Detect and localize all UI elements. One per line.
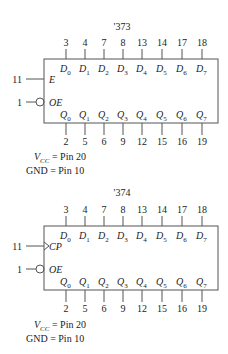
output-label: Q4 — [136, 109, 147, 123]
control-label: OE — [49, 97, 62, 108]
pin-number: 8 — [121, 37, 126, 48]
vcc-note: VCC = Pin 20 — [34, 319, 86, 333]
pin-number: 3 — [64, 204, 69, 215]
output-label: Q7 — [196, 109, 207, 123]
pin-number: 9 — [121, 136, 126, 147]
pin-number: 8 — [121, 204, 126, 215]
output-label: Q1 — [79, 276, 90, 290]
pin-number: 17 — [177, 37, 187, 48]
pin-number: 11 — [12, 74, 22, 85]
data-input-label: D6 — [175, 63, 187, 77]
pin-number: 7 — [102, 37, 107, 48]
data-input-label: D4 — [135, 230, 147, 244]
pin-number: 12 — [137, 303, 147, 314]
data-input-label: D3 — [116, 63, 128, 77]
output-label: Q5 — [156, 276, 167, 290]
pin-number: 13 — [137, 204, 147, 215]
output-label: Q7 — [196, 276, 207, 290]
pin-number: 2 — [64, 303, 69, 314]
data-input-label: D6 — [175, 230, 187, 244]
output-label: Q6 — [176, 276, 187, 290]
output-label: Q5 — [156, 109, 167, 123]
vcc-note: VCC = Pin 20 — [34, 151, 86, 165]
pin-number: 17 — [177, 204, 187, 215]
pin-number: 16 — [177, 303, 187, 314]
output-label: Q6 — [176, 109, 187, 123]
pin-number: 15 — [157, 303, 167, 314]
data-input-label: D0 — [59, 63, 71, 77]
chip-title: '373 — [114, 21, 131, 32]
pin-number: 3 — [64, 37, 69, 48]
pin-number: 14 — [157, 37, 167, 48]
data-input-label: D5 — [155, 63, 167, 77]
pin-number: 1 — [17, 97, 22, 108]
output-label: Q2 — [98, 276, 109, 290]
pin-number: 15 — [157, 136, 167, 147]
pin-number: 18 — [197, 37, 207, 48]
control-label: CP — [49, 241, 62, 252]
control-label: OE — [49, 264, 62, 275]
control-label: E — [48, 74, 55, 85]
pin-number: 4 — [83, 204, 88, 215]
data-input-label: D7 — [195, 230, 207, 244]
pin-number: 9 — [121, 303, 126, 314]
inversion-bubble-icon — [36, 265, 44, 273]
gnd-note: GND = Pin 10 — [26, 333, 84, 344]
pin-number: 6 — [102, 136, 107, 147]
pin-number: 19 — [197, 136, 207, 147]
output-label: Q1 — [79, 109, 90, 123]
chip-title: '374 — [114, 187, 131, 198]
pin-number: 5 — [83, 303, 88, 314]
data-input-label: D2 — [97, 230, 109, 244]
data-input-label: D5 — [155, 230, 167, 244]
pin-number: 2 — [64, 136, 69, 147]
output-label: Q3 — [117, 109, 128, 123]
data-input-label: D1 — [78, 230, 90, 244]
output-label: Q4 — [136, 276, 147, 290]
data-input-label: D7 — [195, 63, 207, 77]
data-input-label: D4 — [135, 63, 147, 77]
pin-number: 16 — [177, 136, 187, 147]
gnd-note: GND = Pin 10 — [26, 165, 84, 176]
chip-373: '3733D04D17D28D313D414D517D618D7Q02Q15Q2… — [12, 21, 218, 176]
data-input-label: D2 — [97, 63, 109, 77]
pin-number: 4 — [83, 37, 88, 48]
pin-number: 5 — [83, 136, 88, 147]
pin-number: 14 — [157, 204, 167, 215]
pin-number: 7 — [102, 204, 107, 215]
chip-374: '3743D04D17D28D313D414D517D618D7Q02Q15Q2… — [12, 187, 218, 344]
output-label: Q2 — [98, 109, 109, 123]
pin-number: 18 — [197, 204, 207, 215]
data-input-label: D3 — [116, 230, 128, 244]
pin-number: 19 — [197, 303, 207, 314]
data-input-label: D1 — [78, 63, 90, 77]
pin-number: 12 — [137, 136, 147, 147]
output-label: Q0 — [60, 276, 71, 290]
inversion-bubble-icon — [36, 98, 44, 106]
output-label: Q3 — [117, 276, 128, 290]
output-label: Q0 — [60, 109, 71, 123]
pin-number: 13 — [137, 37, 147, 48]
pin-number: 11 — [12, 241, 22, 252]
pin-number: 1 — [17, 264, 22, 275]
pin-number: 6 — [102, 303, 107, 314]
ic-pinout-diagram: '3733D04D17D28D313D414D517D618D7Q02Q15Q2… — [0, 0, 228, 354]
